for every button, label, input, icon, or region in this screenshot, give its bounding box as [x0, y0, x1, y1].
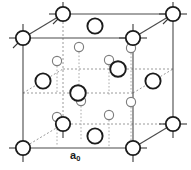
corner-atom-back-bottom-left — [56, 117, 70, 131]
face-center-atom-bottom — [87, 128, 102, 143]
corner-atom-back-bottom-right — [166, 117, 180, 131]
interior-small-atom — [126, 97, 135, 106]
interior-large-atom — [110, 61, 126, 77]
unit-cell-diagram — [0, 0, 191, 170]
face-center-atoms-group — [35, 18, 160, 143]
interior-small-atom — [104, 110, 113, 119]
corner-atom-back-top-right — [166, 7, 180, 21]
face-center-atom-top — [87, 18, 102, 33]
face-center-atom-right — [145, 73, 160, 88]
crystal-structure-figure: a0 — [0, 0, 191, 170]
interior-small-atom — [52, 56, 61, 65]
crosshair-tick — [13, 43, 18, 48]
interior-small-atoms-group — [52, 42, 135, 121]
corner-atom-front-bottom-right — [126, 141, 140, 155]
lattice-constant-subscript: 0 — [76, 154, 80, 163]
face-center-atom-left — [35, 73, 50, 88]
corner-atom-back-top-left — [56, 7, 70, 21]
corner-atom-front-bottom-left — [16, 141, 30, 155]
corner-atom-front-top-left — [16, 31, 30, 45]
interior-large-atom — [70, 85, 86, 101]
lattice-constant-label: a0 — [70, 150, 80, 161]
corner-atom-front-top-right — [126, 31, 140, 45]
interior-small-atom — [74, 42, 83, 51]
